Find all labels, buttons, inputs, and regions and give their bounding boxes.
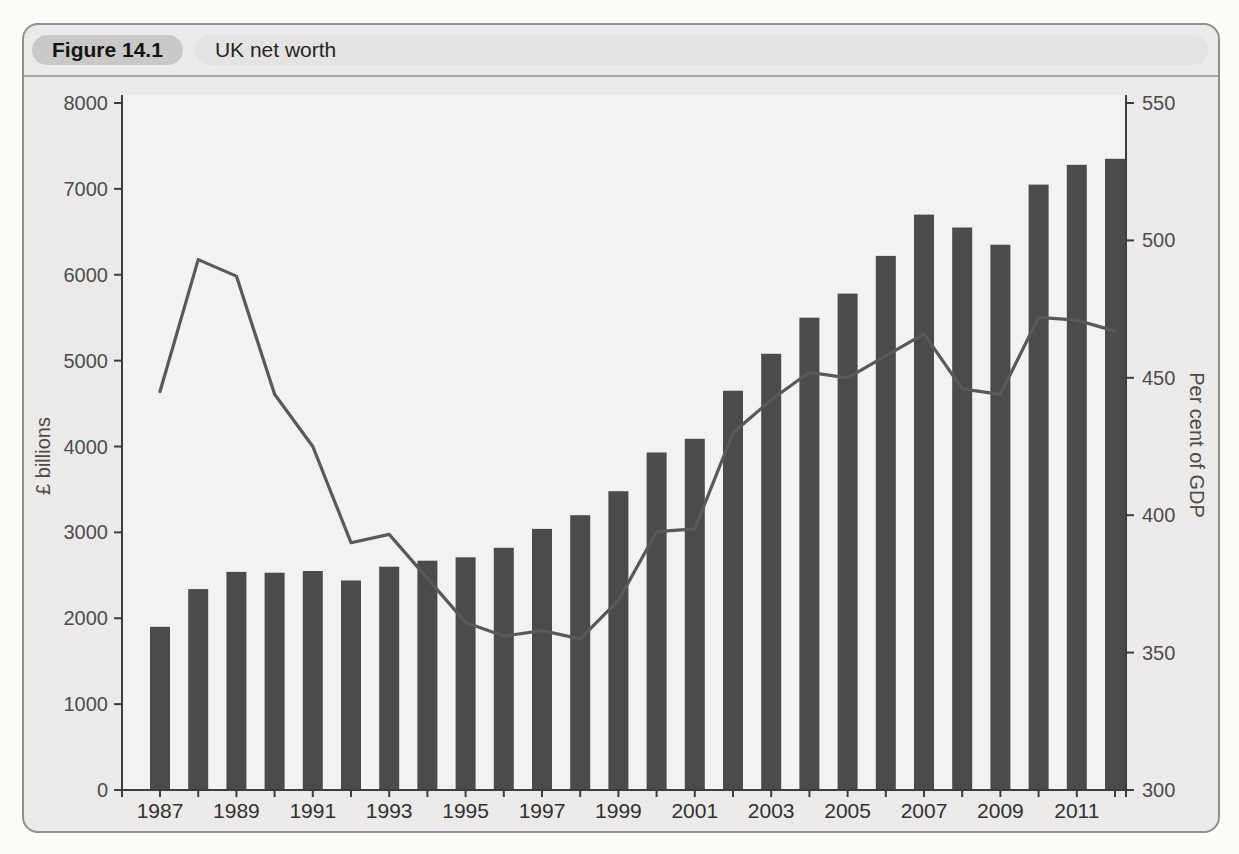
left-axis-tick-label-7000: 7000 bbox=[64, 178, 109, 200]
right-axis-tick-label-300: 300 bbox=[1142, 779, 1175, 801]
bar-1997 bbox=[532, 529, 552, 790]
x-axis-label-2001: 2001 bbox=[671, 799, 718, 822]
left-axis-tick-label-1000: 1000 bbox=[64, 693, 109, 715]
x-axis-label-1987: 1987 bbox=[137, 799, 184, 822]
right-axis-tick-label-450: 450 bbox=[1142, 367, 1175, 389]
x-axis-label-2003: 2003 bbox=[748, 799, 795, 822]
bar-2008 bbox=[952, 228, 972, 791]
bar-2001 bbox=[685, 439, 705, 790]
bar-2007 bbox=[914, 215, 934, 790]
bar-2003 bbox=[761, 354, 781, 790]
bar-1993 bbox=[379, 567, 399, 790]
bar-1999 bbox=[608, 491, 628, 790]
bar-2009 bbox=[990, 245, 1010, 790]
bar-1994 bbox=[417, 561, 437, 790]
x-axis-label-1989: 1989 bbox=[213, 799, 260, 822]
page: Figure 14.1 UK net worth 010002000300040… bbox=[0, 0, 1239, 854]
x-axis-label-2011: 2011 bbox=[1054, 799, 1099, 822]
x-axis-label-1997: 1997 bbox=[519, 799, 566, 822]
right-axis-tick-label-500: 500 bbox=[1142, 229, 1175, 251]
net-worth-chart: 0100020003000400050006000700080003003504… bbox=[0, 0, 1239, 854]
bar-1987 bbox=[150, 627, 170, 790]
right-axis-title: Per cent of GDP bbox=[1186, 372, 1208, 518]
bar-2004 bbox=[799, 318, 819, 790]
x-axis-label-1999: 1999 bbox=[595, 799, 642, 822]
bar-2006 bbox=[876, 256, 896, 790]
right-axis-tick-label-350: 350 bbox=[1142, 642, 1175, 664]
bar-2000 bbox=[647, 453, 667, 791]
x-axis-label-2005: 2005 bbox=[824, 799, 871, 822]
bar-2010 bbox=[1029, 185, 1049, 790]
left-axis-tick-label-6000: 6000 bbox=[64, 264, 109, 286]
bar-2011 bbox=[1067, 165, 1087, 790]
bar-2005 bbox=[838, 294, 858, 790]
bar-1996 bbox=[494, 548, 514, 790]
x-axis-label-1993: 1993 bbox=[366, 799, 413, 822]
bar-1989 bbox=[226, 572, 246, 790]
bar-1990 bbox=[265, 573, 285, 790]
x-axis-label-1995: 1995 bbox=[442, 799, 489, 822]
bar-1998 bbox=[570, 515, 590, 790]
bar-2012 bbox=[1105, 159, 1125, 790]
left-axis-tick-label-8000: 8000 bbox=[64, 92, 109, 114]
right-axis-tick-label-400: 400 bbox=[1142, 504, 1175, 526]
left-axis-tick-label-3000: 3000 bbox=[64, 521, 109, 543]
bar-1991 bbox=[303, 571, 323, 790]
left-axis-tick-label-2000: 2000 bbox=[64, 607, 109, 629]
left-axis-tick-label-5000: 5000 bbox=[64, 350, 109, 372]
x-axis-label-2009: 2009 bbox=[977, 799, 1024, 822]
x-axis-label-2007: 2007 bbox=[901, 799, 948, 822]
left-axis-tick-label-4000: 4000 bbox=[64, 436, 109, 458]
bar-1995 bbox=[456, 557, 476, 790]
left-axis-tick-label-0: 0 bbox=[97, 779, 108, 801]
x-axis-label-1991: 1991 bbox=[289, 799, 336, 822]
bar-1988 bbox=[188, 589, 208, 790]
left-axis-title: £ billions bbox=[32, 417, 54, 495]
bar-1992 bbox=[341, 581, 361, 791]
right-axis-tick-label-550: 550 bbox=[1142, 92, 1175, 114]
